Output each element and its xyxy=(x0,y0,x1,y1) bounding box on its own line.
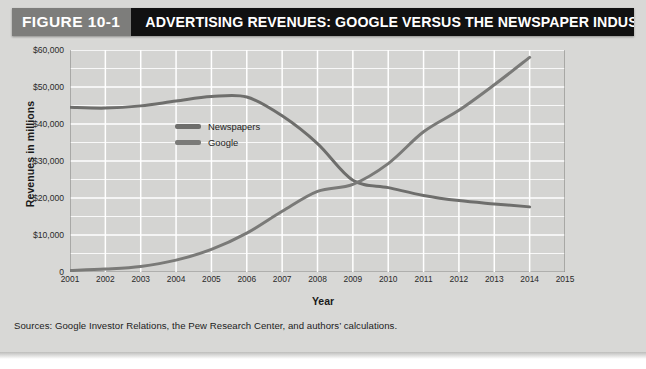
y-axis-tick-labels: 0$10,000$20,000$30,000$40,000$50,000$60,… xyxy=(8,40,64,272)
y-tick-label: $50,000 xyxy=(4,82,64,92)
x-axis-label: Year xyxy=(0,295,646,307)
x-tick-label: 2008 xyxy=(308,274,327,284)
card-shadow xyxy=(0,352,646,359)
figure-number-label: FIGURE 10-1 xyxy=(12,8,131,36)
x-tick-label: 2012 xyxy=(450,274,469,284)
x-tick-label: 2015 xyxy=(556,274,575,284)
chart-container: Revenues in millions 0$10,000$20,000$30,… xyxy=(0,40,646,312)
y-tick-label: $10,000 xyxy=(4,230,64,240)
series-line-newspapers xyxy=(70,95,530,207)
x-tick-label: 2011 xyxy=(415,274,433,284)
x-tick-label: 2009 xyxy=(344,274,363,284)
legend-item-newspapers: Newspapers xyxy=(175,120,260,133)
y-tick-label: $30,000 xyxy=(4,156,64,166)
plot-area xyxy=(70,50,565,272)
x-tick-label: 2010 xyxy=(379,274,398,284)
legend-swatch-icon xyxy=(175,140,201,145)
x-tick-label: 2007 xyxy=(273,274,292,284)
chart-legend: NewspapersGoogle xyxy=(175,120,260,152)
x-tick-label: 2004 xyxy=(167,274,186,284)
legend-label: Newspapers xyxy=(208,120,260,133)
x-tick-label: 2002 xyxy=(96,274,115,284)
y-tick-label: $20,000 xyxy=(4,193,64,203)
x-tick-label: 2005 xyxy=(202,274,221,284)
series-lines xyxy=(70,57,530,270)
series-line-google xyxy=(70,57,530,270)
legend-label: Google xyxy=(208,136,238,149)
y-tick-label: $40,000 xyxy=(4,119,64,129)
x-tick-label: 2003 xyxy=(131,274,150,284)
x-tick-label: 2013 xyxy=(485,274,504,284)
x-tick-label: 2006 xyxy=(237,274,256,284)
figure-card: FIGURE 10-1 ADVERTISING REVENUES: GOOGLE… xyxy=(0,0,646,352)
x-tick-label: 2014 xyxy=(520,274,539,284)
y-tick-label: $60,000 xyxy=(4,45,64,55)
source-note: Sources: Google Investor Relations, the … xyxy=(14,320,634,331)
x-axis-tick-labels: 2001200220032004200520062007200820092010… xyxy=(0,272,646,290)
x-tick-label: 2001 xyxy=(61,274,80,284)
figure-header-bar: FIGURE 10-1 ADVERTISING REVENUES: GOOGLE… xyxy=(12,8,634,36)
legend-swatch-icon xyxy=(175,124,201,129)
legend-item-google: Google xyxy=(175,136,260,149)
chart-svg xyxy=(70,50,565,272)
figure-title: ADVERTISING REVENUES: GOOGLE VERSUS THE … xyxy=(131,8,634,36)
